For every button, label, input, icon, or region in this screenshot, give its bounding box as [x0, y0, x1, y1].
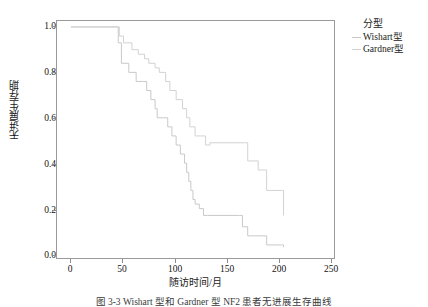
x-tick-mark: [122, 259, 123, 263]
legend-item-label: Wishart型: [363, 32, 403, 43]
x-tick-mark: [70, 259, 71, 263]
legend-title: 分型: [363, 18, 428, 30]
x-tick-mark: [175, 259, 176, 263]
survival-curves-svg: [57, 21, 334, 258]
x-tick-mark: [331, 259, 332, 263]
series-line-wishart: [71, 27, 284, 247]
legend: 分型 Wishart型 Gardner型: [352, 18, 428, 55]
figure-caption: 图 3-3 Wishart 型和 Gardner 型 NF2 患者无进展生存曲线: [0, 297, 428, 307]
legend-item-wishart[interactable]: Wishart型: [352, 31, 428, 43]
x-tick-label: 150: [220, 264, 234, 274]
x-tick-label: 50: [117, 264, 127, 274]
x-tick-label: 250: [324, 264, 338, 274]
legend-swatch-icon: [352, 34, 361, 41]
legend-swatch-icon: [352, 46, 361, 53]
x-tick-mark: [227, 259, 228, 263]
plot-area: [56, 20, 335, 259]
y-axis-title: 无进展生存期: [9, 80, 23, 140]
x-tick-label: 0: [68, 264, 73, 274]
x-tick-mark: [279, 259, 280, 263]
figure-container: 1.0 0.8 0.6 0.4 0.2 0.0 无进展生存期 0 50 100 …: [0, 0, 428, 307]
x-tick-label: 100: [168, 264, 182, 274]
x-tick-label: 200: [272, 264, 286, 274]
legend-item-gardner[interactable]: Gardner型: [352, 43, 428, 55]
x-axis-title: 随访时间/月: [56, 277, 335, 288]
legend-item-label: Gardner型: [363, 44, 404, 55]
series-line-gardner: [71, 27, 284, 215]
